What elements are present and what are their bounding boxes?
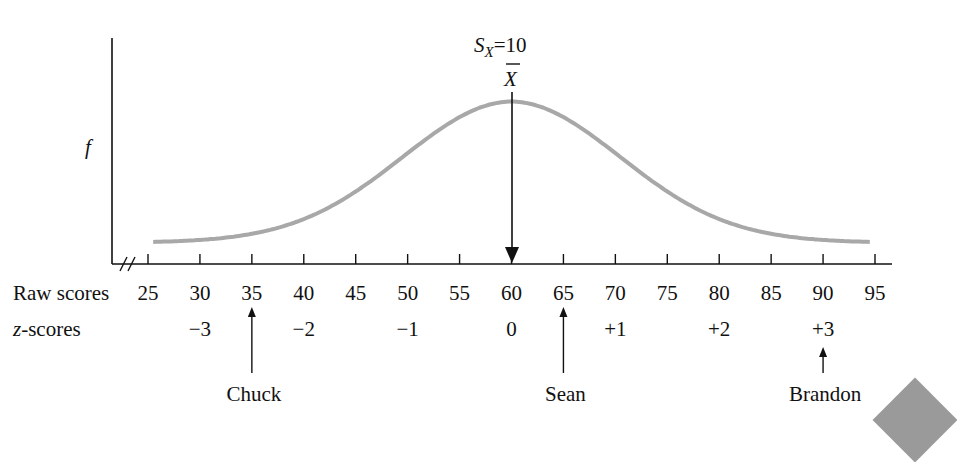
raw-score-label: 35	[241, 281, 262, 305]
raw-scores-row-label: Raw scores	[13, 281, 109, 305]
raw-score-label: 90	[813, 281, 834, 305]
raw-score-label: 25	[138, 281, 159, 305]
mean-label: X	[503, 67, 518, 91]
z-score-label: +1	[604, 317, 626, 341]
raw-score-label: 70	[605, 281, 626, 305]
z-score-label: 0	[506, 317, 517, 341]
raw-score-label: 85	[761, 281, 782, 305]
y-axis-label: f	[85, 135, 94, 159]
person-name: Sean	[545, 382, 586, 406]
raw-score-label: 40	[293, 281, 314, 305]
sd-annotation: SX=10	[474, 33, 527, 60]
raw-score-label: 60	[501, 281, 522, 305]
raw-score-labels: 253035404550556065707580859095	[138, 281, 886, 305]
z-score-label: −2	[293, 317, 315, 341]
raw-score-label: 45	[345, 281, 366, 305]
z-score-label: +3	[812, 317, 834, 341]
raw-score-label: 95	[865, 281, 886, 305]
arrowhead-icon	[559, 307, 567, 317]
person-name: Brandon	[789, 382, 862, 406]
person-markers: ChuckSeanBrandon	[226, 307, 861, 406]
person-name: Chuck	[226, 382, 281, 406]
person-marker-brandon: Brandon	[789, 347, 862, 406]
person-marker-sean: Sean	[545, 307, 586, 406]
arrowhead-icon	[248, 307, 256, 317]
mean-arrow-icon	[505, 92, 519, 263]
person-marker-chuck: Chuck	[226, 307, 281, 406]
arrowhead-icon	[819, 347, 827, 357]
z-scores-row-label: z-scores	[12, 317, 81, 341]
z-score-label: −3	[189, 317, 211, 341]
raw-score-label: 55	[449, 281, 470, 305]
raw-score-label: 50	[397, 281, 418, 305]
z-score-label: −1	[396, 317, 418, 341]
raw-score-label: 75	[657, 281, 678, 305]
raw-score-label: 30	[189, 281, 210, 305]
z-score-label: +2	[708, 317, 730, 341]
raw-score-label: 80	[709, 281, 730, 305]
z-score-labels: −3−2−10+1+2+3	[189, 317, 834, 341]
raw-score-label: 65	[553, 281, 574, 305]
